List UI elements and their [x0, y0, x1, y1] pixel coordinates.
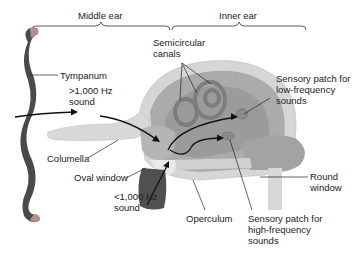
label-low-freq-sound: <1,000 Hz sound	[114, 191, 158, 213]
sensory-patch-low	[236, 109, 248, 119]
section-label-inner-ear: Inner ear	[219, 10, 257, 21]
label-oval-window: Oval window	[74, 172, 128, 183]
label-round-window: Round window	[310, 171, 342, 193]
label-semicircular-canals: Semicircular canals	[153, 37, 205, 59]
ear-diagram: Middle ear Inner ear Tympanum >1,000 Hz …	[0, 0, 363, 263]
label-sensory-patch-low: Sensory patch for low-frequency sounds	[276, 73, 350, 106]
label-operculum: Operculum	[186, 213, 232, 224]
label-columella: Columella	[47, 153, 89, 164]
section-label-middle-ear: Middle ear	[78, 10, 122, 21]
inner-ear-bracket	[172, 22, 306, 30]
label-tympanum: Tympanum	[60, 70, 107, 81]
tympanum	[20, 28, 40, 223]
middle-ear-bracket	[32, 22, 170, 30]
sensory-patch-high	[222, 132, 234, 140]
label-sensory-patch-high: Sensory patch for high-frequency sounds	[248, 213, 322, 246]
lower-bone-band	[170, 158, 252, 170]
label-high-freq-sound: >1,000 Hz sound	[69, 85, 113, 107]
